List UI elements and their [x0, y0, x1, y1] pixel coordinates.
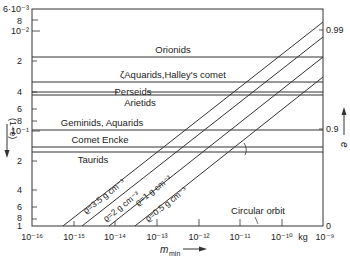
rho-2-line [82, 37, 323, 226]
x-tick-1e-12: 10⁻¹² [188, 232, 209, 242]
geminids-label: Geminids, Aquarids [61, 117, 144, 128]
y-left-6b: 6 [17, 202, 22, 212]
arrow-down-icon [5, 150, 10, 158]
arc-marker [244, 143, 246, 155]
orionids-label: Orionids [155, 44, 191, 55]
x-tick-1e-10: 10⁻¹⁰ [271, 232, 293, 242]
encke-label: Comet Encke [71, 134, 128, 145]
left-ticks [32, 20, 40, 219]
y-left-2a: 2 [17, 56, 22, 66]
x-tick-1e-16: 10⁻¹⁶ [21, 232, 43, 242]
x-tick-1e-9: 10⁻⁹ [316, 232, 335, 242]
y-left-1: 1 [17, 221, 22, 231]
perseids-label: Perseids [115, 86, 152, 97]
y-right-0.99: 0.99 [326, 25, 344, 35]
x-tick-1e-13: 10⁻¹³ [146, 232, 167, 242]
y-left-1e-2: 10⁻² [11, 26, 29, 36]
arrow-right-icon [199, 247, 207, 252]
circular-orbit-pointer [255, 217, 258, 224]
x-tick-1e-14: 10⁻¹⁴ [104, 232, 126, 242]
x-axis-label-sub: min [169, 250, 180, 257]
taurids-label: Taurids [78, 154, 109, 165]
circular-orbit-label: Circular orbit [231, 205, 285, 216]
meteor-stream-chart: Orionids ζAquarids,Halley's comet Persei… [0, 0, 350, 257]
y-left-2b: 2 [17, 156, 22, 166]
zeta-aquarids-label: ζAquarids,Halley's comet [120, 69, 226, 80]
x-tick-1e-15: 10⁻¹⁵ [63, 232, 85, 242]
y-left-4b: 4 [17, 185, 22, 195]
x-tick-1e-11: 10⁻¹¹ [229, 232, 250, 242]
x-axis-label: m [160, 244, 168, 255]
y-right-axis-label: e [339, 142, 350, 148]
y-left-axis-label: (1−e) [8, 118, 18, 139]
y-left-top: 6·10⁻³ [3, 4, 29, 14]
arietids-label: Arietids [124, 97, 156, 108]
y-left-6a: 6 [17, 104, 22, 114]
y-right-0: 0 [326, 221, 331, 231]
y-left-8a: 8 [17, 16, 22, 26]
y-left-4a: 4 [17, 87, 22, 97]
y-right-0.9: 0.9 [326, 124, 339, 134]
x-unit: kg [298, 232, 308, 242]
arrow-up-icon [342, 107, 347, 115]
